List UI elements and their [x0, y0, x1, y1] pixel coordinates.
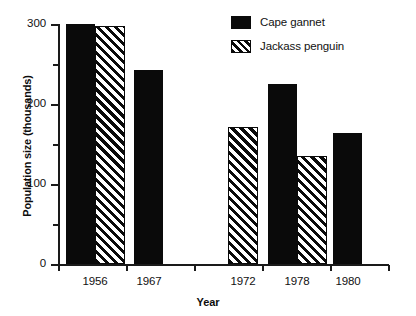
x-tick-1 — [126, 265, 128, 271]
y-axis-title: Population size (thousands) — [21, 46, 33, 246]
legend-swatch-hatch-icon — [231, 40, 251, 53]
legend-label-cape-gannet: Cape gannet — [260, 15, 325, 29]
x-axis-line — [58, 264, 389, 266]
bar-1978-cape-gannet — [268, 84, 297, 264]
legend-label-jackass-penguin: Jackass penguin — [260, 39, 344, 53]
x-tick-label-1967: 1967 — [119, 275, 179, 287]
y-tick-label-300: 300 — [12, 18, 46, 30]
bar-1956-cape-gannet — [66, 24, 95, 264]
y-tick-minor-250 — [53, 64, 59, 66]
x-axis-title: Year — [0, 296, 416, 308]
legend-swatch-solid-icon — [231, 16, 251, 29]
y-tick-minor-150 — [53, 144, 59, 146]
x-tick-5 — [388, 265, 390, 271]
y-tick-200 — [51, 104, 59, 106]
y-tick-minor-50 — [53, 224, 59, 226]
y-tick-300 — [51, 24, 59, 26]
population-bar-chart: 300 200 100 0 Population size (thousands… — [0, 0, 416, 316]
x-tick-label-1956: 1956 — [65, 275, 125, 287]
x-tick-3 — [262, 265, 264, 271]
bar-1980-cape-gannet — [333, 133, 362, 264]
bar-1956-jackass-penguin — [95, 26, 125, 264]
y-tick-label-0: 0 — [12, 258, 46, 270]
y-tick-100 — [51, 184, 59, 186]
bar-1978-jackass-penguin — [297, 156, 327, 264]
bar-1972-jackass-penguin — [228, 127, 258, 264]
x-tick-2 — [194, 265, 196, 271]
bar-1967-cape-gannet — [134, 70, 163, 264]
x-tick-origin — [58, 265, 60, 271]
x-tick-label-1972: 1972 — [213, 275, 273, 287]
x-tick-4 — [330, 265, 332, 271]
x-tick-label-1980: 1980 — [318, 275, 378, 287]
